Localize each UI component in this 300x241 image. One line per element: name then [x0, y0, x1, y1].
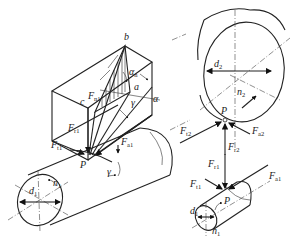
- label-n2: n2: [237, 86, 245, 98]
- force-decomposition-box: [52, 46, 160, 160]
- label-d1-left: d1: [29, 185, 37, 197]
- label-Ft1: Ft1: [50, 139, 62, 151]
- label-Fr2: Fr2: [227, 141, 240, 153]
- label-Fa1: Fa1: [120, 136, 133, 148]
- small-pinion-labels: Fr1 Ft1 Fa1 P d1 n1: [189, 158, 281, 237]
- label-Fr1: Fr1: [67, 122, 80, 134]
- small-tangential-arrow: [205, 179, 222, 189]
- label-Fa2: Fa2: [251, 125, 264, 137]
- label-Fr1-small: Fr1: [207, 158, 220, 170]
- label-Ft1-small: Ft1: [189, 178, 201, 190]
- label-Fa1-small: Fa1: [268, 170, 281, 182]
- small-pinion-force-arrows: [205, 154, 268, 189]
- pinion-cylinder: [8, 120, 190, 232]
- label-b: b: [124, 31, 129, 42]
- label-P-left: P: [79, 159, 86, 170]
- label-Fn1: Fn1: [87, 90, 101, 102]
- label-Ft2: Ft2: [179, 125, 191, 137]
- label-a: a: [134, 81, 139, 92]
- label-d2: d2: [214, 58, 222, 70]
- gear-wheel: [172, 9, 291, 150]
- wheel-axial-arrow: [229, 123, 250, 134]
- label-d1-small: d1: [190, 205, 198, 217]
- small-pinion: [191, 181, 270, 236]
- pinion-force-arrows: [52, 108, 152, 155]
- label-alpha-n: αn: [129, 66, 138, 78]
- helical-gear-force-diagram: b c a αn α γ Fn1 Fr1 Ft1 Fa1 P γ d1 n1 d…: [0, 0, 300, 241]
- label-n1-left: n1: [53, 177, 61, 189]
- label-alpha: α: [153, 93, 159, 104]
- left-labels: b c a αn α γ Fn1 Fr1 Ft1 Fa1 P γ d1 n1: [29, 31, 159, 197]
- label-c: c: [80, 96, 85, 107]
- wheel-labels: d2 n2 P Ft2 Fa2 Fr2: [179, 58, 264, 153]
- contact-point-marker: [223, 118, 227, 122]
- label-n1-small: n1: [212, 225, 220, 237]
- label-P-wheel: P: [220, 105, 227, 116]
- label-P-small: P: [223, 195, 230, 206]
